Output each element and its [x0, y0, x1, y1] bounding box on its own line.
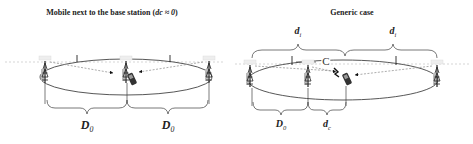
- diagram-graphics: [0, 0, 473, 144]
- label-d0-left: D0: [81, 118, 94, 134]
- label-cell-center: C: [321, 56, 330, 67]
- title-text: Mobile next to the base station (: [46, 8, 155, 17]
- title-variable: dc ≈ 0: [155, 8, 175, 17]
- title-suffix: ): [175, 8, 178, 17]
- right-panel-title: Generic case: [330, 8, 373, 17]
- label-d0-right: D0: [162, 118, 175, 134]
- right-panel-graphics: [235, 44, 470, 115]
- label-di-right: di: [390, 25, 397, 38]
- diagram: Mobile next to the base station (dc ≈ 0)…: [0, 0, 473, 144]
- label-di-left: di: [295, 25, 302, 38]
- label-dc: dc: [323, 118, 331, 131]
- label-d0: D0: [276, 118, 286, 131]
- left-panel-title: Mobile next to the base station (dc ≈ 0): [46, 8, 178, 17]
- left-panel-graphics: [5, 55, 225, 114]
